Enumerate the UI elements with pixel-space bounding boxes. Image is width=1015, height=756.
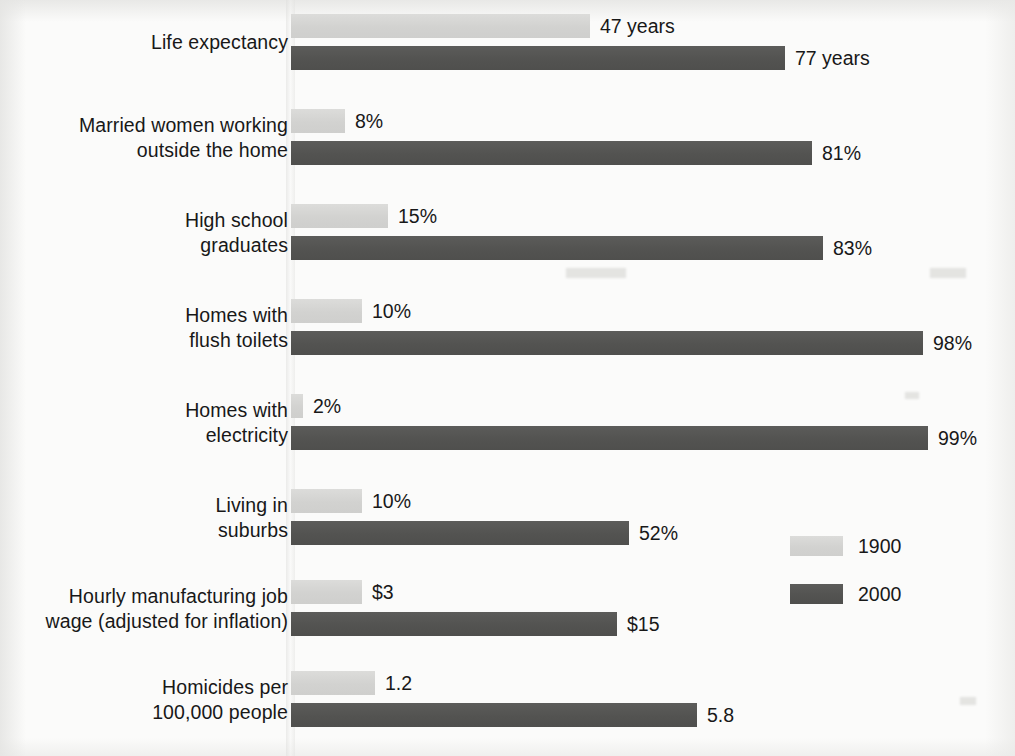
bar-value-label: 8% xyxy=(355,110,383,133)
bar-2000: 5.8 xyxy=(291,703,697,727)
bar-2000: 83% xyxy=(291,236,823,260)
chart-row: Life expectancy47 years77 years xyxy=(0,14,1015,94)
row-label: Homes with electricity xyxy=(8,398,288,448)
bar-value-label: 77 years xyxy=(795,47,870,70)
legend-swatch xyxy=(790,584,843,604)
bar-1900: 2% xyxy=(291,394,303,418)
bar-2000: 98% xyxy=(291,331,923,355)
bar-2000: 81% xyxy=(291,141,812,165)
bar-2000: $15 xyxy=(291,612,617,636)
bar-2000: 52% xyxy=(291,521,629,545)
bar-fill-1900 xyxy=(291,14,590,38)
chart-row: Married women working outside the home8%… xyxy=(0,109,1015,189)
bar-fill-1900 xyxy=(291,489,362,513)
bar-value-label: 2% xyxy=(313,395,341,418)
bar-fill-1900 xyxy=(291,299,362,323)
bar-fill-2000 xyxy=(291,612,617,636)
bar-1900: 15% xyxy=(291,204,388,228)
bar-fill-1900 xyxy=(291,109,345,133)
row-label: Married women working outside the home xyxy=(8,113,288,163)
bar-value-label: 81% xyxy=(822,142,861,165)
row-label: Hourly manufacturing job wage (adjusted … xyxy=(8,584,288,634)
bar-value-label: $3 xyxy=(372,581,394,604)
chart-row: Homes with electricity2%99% xyxy=(0,394,1015,474)
bar-fill-1900 xyxy=(291,204,388,228)
bar-value-label: 10% xyxy=(372,490,411,513)
row-label: High school graduates xyxy=(8,208,288,258)
bar-value-label: 52% xyxy=(639,522,678,545)
bar-value-label: 10% xyxy=(372,300,411,323)
chart-row: Homicides per 100,000 people1.25.8 xyxy=(0,671,1015,751)
bar-fill-1900 xyxy=(291,671,375,695)
row-label: Homicides per 100,000 people xyxy=(8,675,288,725)
bar-1900: 10% xyxy=(291,299,362,323)
row-label: Living in suburbs xyxy=(8,493,288,543)
bar-fill-2000 xyxy=(291,703,697,727)
legend-swatch xyxy=(790,536,843,556)
bar-value-label: 1.2 xyxy=(385,672,412,695)
row-label: Life expectancy xyxy=(8,30,288,55)
legend-label: 2000 xyxy=(858,583,901,606)
bar-1900: 1.2 xyxy=(291,671,375,695)
bar-1900: 8% xyxy=(291,109,345,133)
bar-fill-1900 xyxy=(291,580,362,604)
bar-value-label: $15 xyxy=(627,613,660,636)
bar-fill-2000 xyxy=(291,331,923,355)
bar-value-label: 83% xyxy=(833,237,872,260)
bar-2000: 77 years xyxy=(291,46,785,70)
bar-fill-2000 xyxy=(291,426,928,450)
legend-label: 1900 xyxy=(858,535,901,558)
bar-2000: 99% xyxy=(291,426,928,450)
chart-row: Homes with flush toilets10%98% xyxy=(0,299,1015,379)
bar-value-label: 99% xyxy=(938,427,977,450)
bar-fill-2000 xyxy=(291,141,812,165)
bar-fill-2000 xyxy=(291,521,629,545)
bar-value-label: 5.8 xyxy=(707,704,734,727)
bar-value-label: 15% xyxy=(398,205,437,228)
row-label: Homes with flush toilets xyxy=(8,303,288,353)
bar-1900: 10% xyxy=(291,489,362,513)
bar-value-label: 98% xyxy=(933,332,972,355)
bar-1900: 47 years xyxy=(291,14,590,38)
bar-chart-figure: Life expectancy47 years77 yearsMarried w… xyxy=(0,0,1015,756)
bar-fill-2000 xyxy=(291,46,785,70)
bar-fill-2000 xyxy=(291,236,823,260)
bar-1900: $3 xyxy=(291,580,362,604)
bar-fill-1900 xyxy=(291,394,303,418)
bar-value-label: 47 years xyxy=(600,15,675,38)
chart-row: High school graduates15%83% xyxy=(0,204,1015,284)
